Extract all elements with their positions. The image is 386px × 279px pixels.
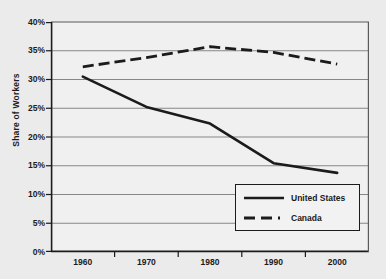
x-tick-label: 2000	[305, 258, 369, 272]
x-tick-label: 1990	[242, 258, 306, 272]
x-axis-tick-labels: 1960 1970 1980 1990 2000	[51, 258, 369, 272]
legend-swatch-dashed	[243, 213, 285, 223]
y-axis-ticks	[46, 23, 52, 252]
line-chart: Share of Workers 0% 5% 10% 15% 20% 25% 3…	[0, 0, 386, 279]
legend-label-canada: Canada	[291, 213, 322, 223]
plot-area	[0, 0, 386, 279]
x-tick-label: 1980	[178, 258, 242, 272]
chart-legend: United States Canada	[235, 184, 360, 231]
x-tick-label: 1970	[115, 258, 179, 272]
legend-swatch-solid	[243, 193, 285, 203]
x-tick-label: 1960	[51, 258, 115, 272]
legend-label-united-states: United States	[291, 193, 345, 203]
legend-item-canada: Canada	[243, 210, 322, 226]
legend-item-united-states: United States	[243, 190, 345, 206]
